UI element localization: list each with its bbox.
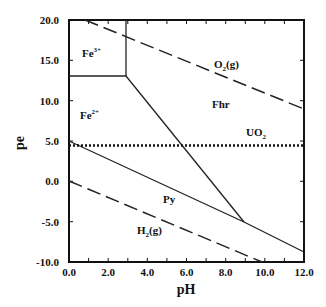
y-axis-ticks xyxy=(69,60,304,221)
y-tick-label: 10.0 xyxy=(40,95,60,107)
x-tick-label: 12.0 xyxy=(294,266,314,278)
fhr-label: Fhr xyxy=(212,98,230,110)
x-tick-label: 8.0 xyxy=(219,266,233,278)
py-label: Py xyxy=(163,193,176,205)
y-tick-label: -10.0 xyxy=(36,256,59,268)
x-axis-ticks xyxy=(89,20,285,262)
y-tick-label: 20.0 xyxy=(40,14,60,26)
y-tick-label: 15.0 xyxy=(40,54,60,66)
uo2-label: UO2 xyxy=(246,126,267,141)
h2-label: H2(g) xyxy=(137,224,162,239)
x-tick-label: 10.0 xyxy=(255,266,275,278)
y-tick-label: -5.0 xyxy=(42,216,60,228)
x-tick-label: 4.0 xyxy=(140,266,154,278)
x-tick-label: 6.0 xyxy=(180,266,194,278)
x-tick-labels: 0.0 2.0 4.0 6.0 8.0 10.0 12.0 xyxy=(62,266,314,278)
fe3-label: Fe3+ xyxy=(82,46,101,59)
y-tick-label: 0.0 xyxy=(45,175,59,187)
x-axis-title: pH xyxy=(177,282,196,297)
o2-label: O2(g) xyxy=(214,58,239,73)
boundary-lines xyxy=(69,20,304,252)
o2-dashed-line xyxy=(85,20,304,109)
eh-ph-diagram: 0.0 2.0 4.0 6.0 8.0 10.0 12.0 20.0 15.0 … xyxy=(0,0,326,307)
fe2-label: Fe2+ xyxy=(80,108,99,121)
pyrite-boundary xyxy=(69,141,304,252)
y-tick-labels: 20.0 15.0 10.0 5.0 0.0 -5.0 -10.0 xyxy=(36,14,59,268)
x-tick-label: 0.0 xyxy=(62,266,76,278)
x-tick-label: 2.0 xyxy=(101,266,115,278)
plot-frame xyxy=(69,20,304,262)
y-tick-label: 5.0 xyxy=(45,135,59,147)
y-axis-title: pe xyxy=(12,136,27,150)
